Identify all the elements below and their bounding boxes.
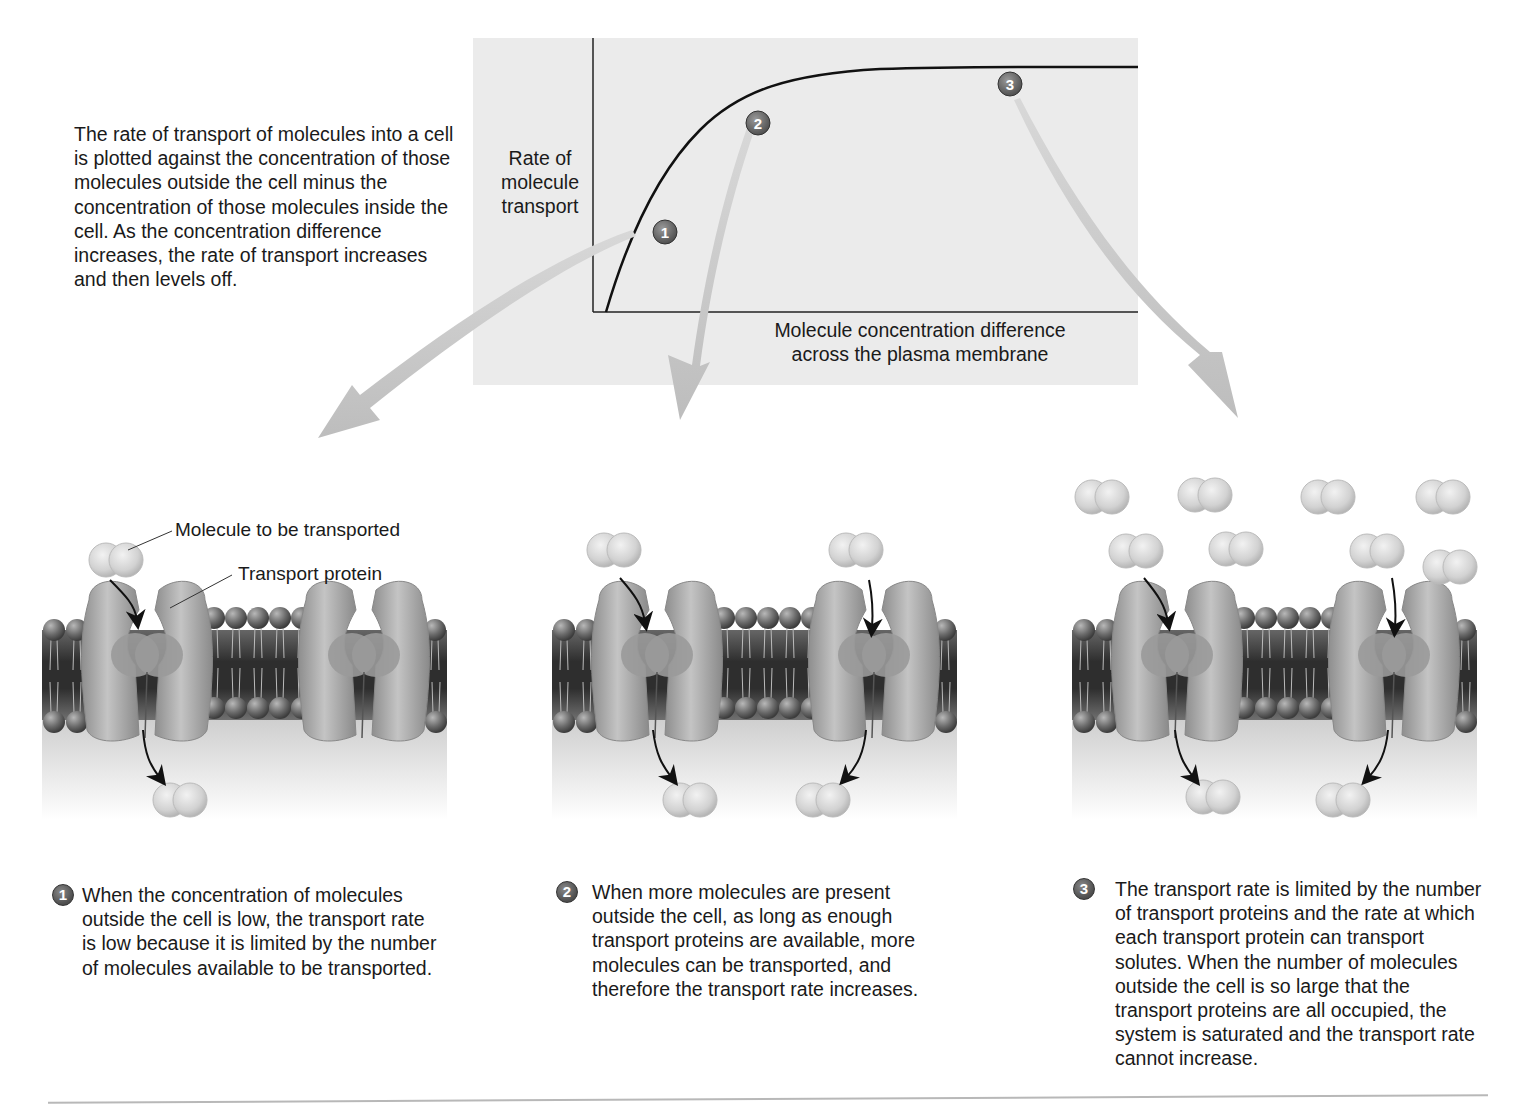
y-axis-label: Rate of molecule transport — [484, 146, 596, 218]
transport-arrow — [1392, 578, 1396, 628]
molecule-outside — [829, 533, 883, 567]
membrane-panel-2 — [552, 581, 957, 820]
x-axis-label-line: across the plasma membrane — [700, 342, 1140, 366]
leader-line-molecule — [128, 531, 172, 550]
caption-1-text: When the concentration of molecules outs… — [52, 883, 442, 980]
molecule-inside — [796, 783, 850, 817]
callout-arrow-1 — [318, 230, 636, 438]
step-badge-1: 1 — [52, 884, 74, 906]
step-badge-2: 2 — [556, 881, 578, 903]
molecules-outside-crowded — [1075, 478, 1477, 584]
caption-3-text: The transport rate is limited by the num… — [1073, 877, 1488, 1071]
svg-text:1: 1 — [661, 224, 669, 241]
label-transport-protein: Transport protein — [238, 563, 382, 585]
x-axis-label-line: Molecule concentration difference — [700, 318, 1140, 342]
caption-1: 1 When the concentration of molecules ou… — [52, 883, 442, 980]
svg-text:2: 2 — [754, 115, 762, 132]
graph-marker-3: 3 — [998, 72, 1022, 96]
y-axis-label-line: Rate of — [484, 146, 596, 170]
molecule-inside — [153, 783, 207, 817]
y-axis-label-line: transport — [484, 194, 596, 218]
transport-arrow — [869, 580, 873, 628]
membrane-panel-1 — [42, 581, 447, 820]
caption-2: 2 When more molecules are present outsid… — [556, 880, 931, 1001]
membrane-panel-3 — [1072, 581, 1477, 820]
x-axis-label: Molecule concentration difference across… — [700, 318, 1140, 366]
graph-marker-2: 2 — [746, 111, 770, 135]
graph-marker-1: 1 — [653, 220, 677, 244]
saturation-curve — [606, 67, 1138, 312]
molecule-outside — [89, 543, 143, 577]
caption-2-text: When more molecules are present outside … — [556, 880, 931, 1001]
label-molecule: Molecule to be transported — [175, 519, 400, 541]
svg-text:3: 3 — [1006, 76, 1014, 93]
molecule-outside — [587, 533, 641, 567]
step-badge-3: 3 — [1073, 878, 1095, 900]
molecule-inside — [663, 783, 717, 817]
callout-arrow-3 — [1014, 98, 1238, 418]
caption-3: 3 The transport rate is limited by the n… — [1073, 877, 1488, 1071]
callout-arrow-2 — [668, 125, 755, 420]
molecule-inside — [1186, 780, 1240, 814]
y-axis-label-line: molecule — [484, 170, 596, 194]
molecule-inside — [1316, 783, 1370, 817]
